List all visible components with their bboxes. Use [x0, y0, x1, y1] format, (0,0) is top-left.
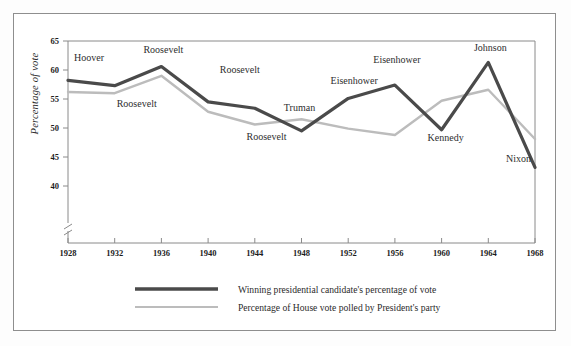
break-slash-upper	[64, 224, 72, 229]
point-label: Roosevelt	[143, 44, 183, 55]
x-tick-label: 1956	[386, 248, 403, 258]
x-tick-label: 1936	[153, 248, 170, 258]
y-tick-label: 45	[51, 152, 60, 162]
point-label: Johnson	[474, 42, 507, 53]
x-tick-label: 1928	[60, 248, 77, 258]
chart-screenshot: Percentage of vote 404550556065 19281932…	[0, 0, 571, 346]
point-label: Nixon	[506, 153, 531, 164]
x-tick-label: 1948	[293, 248, 310, 258]
legend-label: Winning presidential candidate's percent…	[238, 284, 436, 295]
legend-label: Percentage of House vote polled by Presi…	[238, 302, 441, 313]
y-axis-ticks: 404550556065	[51, 36, 69, 191]
point-labels: HooverRooseveltRooseveltRooseveltRooseve…	[74, 42, 531, 164]
plot-area-border	[68, 41, 535, 243]
point-label: Hoover	[74, 52, 105, 63]
y-tick-label: 65	[51, 36, 60, 46]
point-label: Kennedy	[428, 132, 464, 143]
legend: Winning presidential candidate's percent…	[135, 284, 441, 313]
y-tick-label: 60	[51, 65, 60, 75]
series-line	[68, 62, 535, 167]
x-tick-label: 1944	[246, 248, 264, 258]
point-label: Roosevelt	[220, 64, 260, 75]
y-tick-label: 50	[51, 123, 60, 133]
point-label: Eisenhower	[373, 54, 421, 65]
point-label: Roosevelt	[117, 98, 157, 109]
y-tick-label: 55	[51, 94, 60, 104]
x-tick-label: 1952	[340, 248, 357, 258]
point-label: Eisenhower	[331, 75, 379, 86]
x-tick-label: 1932	[106, 248, 123, 258]
x-tick-label: 1940	[200, 248, 217, 258]
x-axis-ticks: 1928193219361940194419481952195619601964…	[60, 238, 544, 258]
x-tick-label: 1968	[527, 248, 544, 258]
series-lines	[68, 62, 535, 167]
line-chart: 404550556065 192819321936194019441948195…	[0, 0, 571, 346]
y-tick-label: 40	[51, 181, 60, 191]
x-tick-label: 1960	[433, 248, 450, 258]
x-tick-label: 1964	[480, 248, 498, 258]
point-label: Roosevelt	[246, 131, 286, 142]
point-label: Truman	[284, 102, 315, 113]
